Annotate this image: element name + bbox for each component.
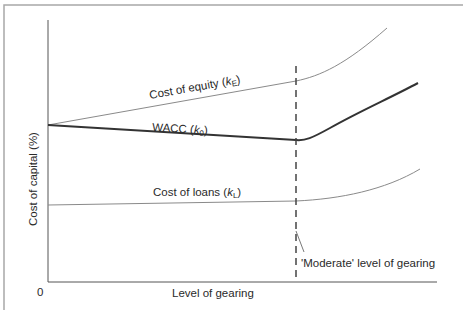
wacc-line [48,83,418,140]
wacc-label: WACC (k0) [152,121,209,138]
y-axis-label: Cost of capital (%) [27,132,39,226]
moderate-gearing-label: 'Moderate' level of gearing [301,257,435,269]
cost-of-loans-label: Cost of loans (kL) [153,186,241,200]
annotation-leader-line [296,231,304,252]
wacc-gearing-chart: Cost of equity (kE) WACC (k0) Cost of lo… [0,0,463,310]
x-axis-label: Level of gearing [172,287,254,299]
origin-label: 0 [37,286,43,298]
